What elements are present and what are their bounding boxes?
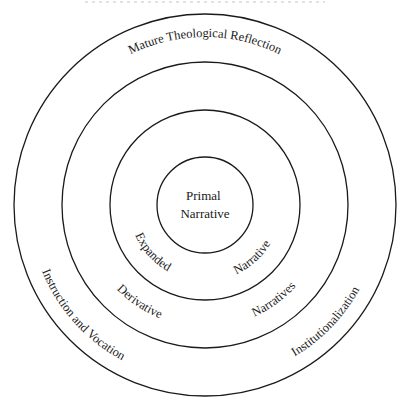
label-institutionalization: Institutionalization [289,283,363,359]
core-label-line1: Primal [186,188,221,203]
concentric-circles-diagram: Primal Narrative Mature Theological Refl… [0,0,408,404]
core-label: Primal Narrative [180,188,229,221]
label-mature-theological-reflection-text: Mature Theological Reflection [126,26,285,57]
ring-inner [110,110,300,300]
ring-core [157,157,253,253]
ring-outer [14,14,396,396]
label-mature-theological-reflection: Mature Theological Reflection [126,26,285,57]
label-narrative-text: Narrative [231,237,273,277]
label-expanded: Expanded [132,230,174,274]
label-narrative: Narrative [231,237,273,277]
label-institutionalization-text: Institutionalization [289,283,363,359]
label-expanded-text: Expanded [132,230,174,274]
ring-middle [62,62,348,348]
core-label-line2: Narrative [180,206,229,221]
